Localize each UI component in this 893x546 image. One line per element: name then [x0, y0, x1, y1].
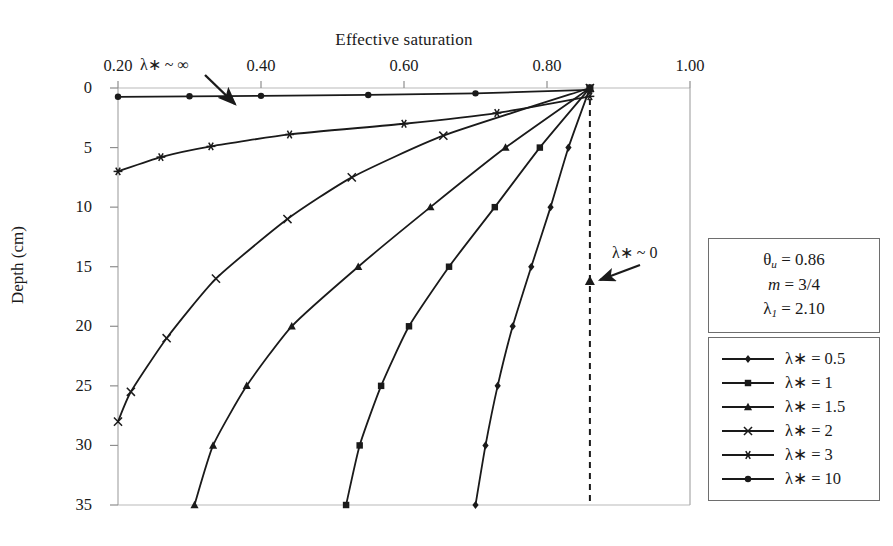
data-point-marker — [207, 143, 216, 151]
legend-marker-sample — [720, 420, 776, 442]
legend-item[interactable]: λ∗ = 2 — [709, 419, 879, 443]
legend-item[interactable]: λ∗ = 0.5 — [709, 347, 879, 371]
data-point-marker — [283, 215, 291, 223]
data-point-marker — [343, 502, 349, 508]
arrow-lambda-zero — [600, 265, 640, 280]
data-point-marker — [528, 263, 534, 271]
data-point-marker — [472, 501, 478, 509]
series-triangle — [190, 84, 594, 508]
legend-item-label: λ∗ = 10 — [776, 469, 841, 489]
data-point-marker — [212, 275, 220, 283]
data-point-marker — [482, 441, 488, 449]
legend-item-label: λ∗ = 3 — [776, 445, 833, 465]
legend-marker-sample — [720, 468, 776, 490]
data-point-marker — [285, 131, 294, 139]
parameter-value: = 0.86 — [777, 250, 825, 269]
arrow-lambda-infinity — [205, 75, 235, 104]
data-point-marker — [492, 204, 498, 210]
series-diamond — [472, 84, 593, 509]
data-point-marker — [446, 263, 452, 269]
series-line — [476, 88, 590, 505]
data-point-marker — [493, 109, 502, 117]
legend-item[interactable]: λ∗ = 1.5 — [709, 395, 879, 419]
legend-item-label: λ∗ = 0.5 — [776, 349, 845, 369]
legend-item-label: λ∗ = 1.5 — [776, 397, 845, 417]
legend-marker-sample — [720, 372, 776, 394]
data-point-marker — [537, 144, 543, 150]
data-point-marker — [472, 90, 478, 96]
data-point-marker — [745, 355, 751, 363]
data-point-marker — [495, 382, 501, 390]
data-point-marker — [209, 441, 217, 448]
series-square — [343, 85, 593, 508]
legend-item[interactable]: λ∗ = 1 — [709, 371, 879, 395]
data-point-marker — [586, 85, 593, 92]
legend-marker-sample — [720, 348, 776, 370]
data-point-marker — [510, 322, 516, 330]
parameter-symbol: m — [768, 275, 780, 294]
legend-item[interactable]: λ∗ = 10 — [709, 467, 879, 491]
series-line — [195, 88, 590, 505]
data-point-marker — [156, 153, 165, 161]
legend-item-label: λ∗ = 1 — [776, 373, 833, 393]
data-point-marker — [585, 276, 595, 285]
data-point-marker — [163, 334, 171, 342]
data-point-marker — [406, 323, 412, 329]
data-point-marker — [115, 94, 121, 100]
data-point-marker — [378, 383, 384, 389]
legend-item-label: λ∗ = 2 — [776, 421, 833, 441]
annotation-lambda-infinity: λ∗ ~ ∞ — [140, 55, 189, 74]
parameter-value: = 2.10 — [777, 299, 825, 318]
data-point-marker — [356, 442, 362, 448]
data-point-marker — [745, 380, 751, 386]
parameter-row: m = 3/4 — [709, 273, 879, 297]
data-point-marker — [547, 203, 553, 211]
data-point-marker — [127, 388, 135, 396]
legend-marker-sample — [720, 396, 776, 418]
parameters-box: θu = 0.86m = 3/4λ1 = 2.10 — [708, 238, 880, 333]
annotation-lambda-zero: λ∗ ~ 0 — [612, 243, 657, 262]
figure-root: Effective saturation 0.200.400.600.801.0… — [0, 0, 893, 546]
data-point-marker — [348, 173, 356, 181]
data-point-marker — [744, 451, 753, 459]
series-asterisk — [114, 92, 595, 175]
data-point-marker — [365, 92, 371, 98]
plot-canvas — [0, 0, 700, 546]
parameter-row: θu = 0.86 — [709, 248, 879, 273]
legend-marker-sample — [720, 444, 776, 466]
data-point-marker — [400, 120, 409, 128]
series-line — [346, 88, 590, 505]
legend-box: λ∗ = 0.5λ∗ = 1λ∗ = 1.5λ∗ = 2λ∗ = 3λ∗ = 1… — [708, 337, 880, 501]
data-point-marker — [186, 93, 192, 99]
parameter-row: λ1 = 2.10 — [709, 297, 879, 322]
chart-area: Effective saturation 0.200.400.600.801.0… — [0, 0, 700, 546]
legend-item[interactable]: λ∗ = 3 — [709, 443, 879, 467]
data-point-marker — [745, 476, 751, 482]
series-line — [118, 96, 590, 171]
data-point-marker — [565, 144, 571, 152]
parameter-value: = 3/4 — [780, 275, 820, 294]
data-point-marker — [258, 93, 264, 99]
data-point-marker — [439, 132, 447, 140]
